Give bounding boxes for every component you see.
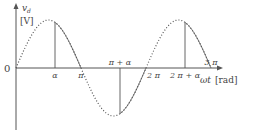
tick-label-two_pi: 2 π <box>146 71 161 80</box>
labels: vd [V] 0 ωt [rad] <box>4 3 237 85</box>
tick-label-pi: π <box>77 71 84 80</box>
output-segment-1 <box>120 68 146 114</box>
y-axis-arrow <box>14 3 19 9</box>
y-axis-label-var: vd <box>22 3 31 14</box>
tick-label-two_pi_alpha: 2 π + α <box>169 71 201 80</box>
tick-labels: αππ + α2 π2 π + α3 π <box>52 58 218 80</box>
waveform-chart: vd [V] 0 ωt [rad] αππ + α2 π2 π + α3 π <box>0 0 255 133</box>
y-axis-label-unit: [V] <box>20 16 34 26</box>
x-axis-arrow <box>217 66 223 71</box>
output-segment-0 <box>55 22 81 68</box>
tick-label-pi_alpha: π + α <box>108 58 132 67</box>
tick-label-three_pi: 3 π <box>205 58 219 67</box>
origin-label: 0 <box>4 63 10 74</box>
tick-label-alpha: α <box>52 71 58 80</box>
x-axis-label-var: ωt <box>200 75 211 85</box>
x-axis-label-unit: [rad] <box>215 75 237 85</box>
